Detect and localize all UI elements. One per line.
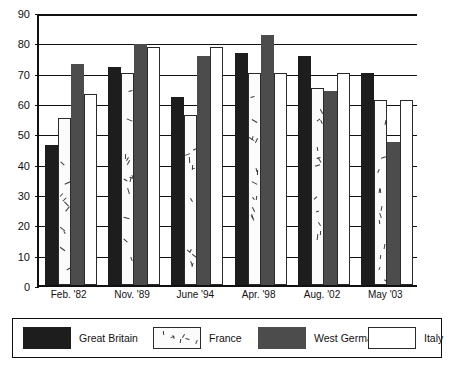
bar-group (102, 14, 165, 285)
bar-group (39, 14, 102, 285)
bar-great-britain[interactable] (171, 97, 184, 285)
legend-item[interactable]: West Germany (258, 319, 384, 357)
speckle-pattern (154, 328, 200, 348)
bar-group (166, 14, 229, 285)
x-tick-label: Apr. '98 (242, 289, 276, 301)
x-tick-label: June '94 (177, 289, 215, 301)
legend-swatch-icon (23, 327, 71, 349)
bar-france[interactable] (248, 73, 261, 285)
x-tick-label: Aug. '02 (304, 289, 340, 301)
bar-great-britain[interactable] (361, 73, 374, 285)
bar-chart: 0102030405060708090 Feb. '82Nov. '89June… (0, 0, 454, 367)
bar-france[interactable] (58, 118, 71, 285)
legend-item[interactable]: Italy (368, 319, 443, 357)
legend: Great BritainFranceWest GermanyItaly (12, 318, 442, 358)
y-tick-label: 70 (18, 69, 30, 80)
x-tick-label: May '03 (368, 289, 403, 301)
y-tick-label: 80 (18, 39, 30, 50)
y-tick-label: 0 (24, 282, 30, 293)
legend-swatch-icon (368, 327, 416, 349)
legend-label: Italy (424, 332, 443, 344)
legend-item[interactable]: Great Britain (23, 319, 138, 357)
bar-france[interactable] (184, 115, 197, 285)
bar-france[interactable] (121, 73, 134, 285)
legend-label: Great Britain (79, 332, 138, 344)
bar-italy[interactable] (337, 73, 350, 285)
bar-italy[interactable] (147, 47, 160, 285)
speckle-pattern (249, 74, 260, 284)
bar-group (292, 14, 355, 285)
bar-italy[interactable] (400, 100, 413, 285)
y-tick-label: 50 (18, 130, 30, 141)
speckle-pattern (185, 116, 196, 284)
bar-italy[interactable] (210, 47, 223, 285)
bars-layer (39, 14, 417, 285)
bar-italy[interactable] (274, 73, 287, 285)
bar-group (356, 14, 419, 285)
bar-great-britain[interactable] (45, 145, 58, 285)
bar-great-britain[interactable] (108, 67, 121, 285)
bar-great-britain[interactable] (298, 56, 311, 285)
bar-west-germany[interactable] (197, 56, 210, 285)
bar-west-germany[interactable] (261, 35, 274, 285)
bar-west-germany[interactable] (134, 44, 147, 285)
y-tick-label: 90 (18, 9, 30, 20)
y-tick-label: 20 (18, 221, 30, 232)
bar-france[interactable] (374, 100, 387, 285)
speckle-pattern (122, 74, 133, 284)
legend-swatch-icon (153, 327, 201, 349)
bar-italy[interactable] (84, 94, 97, 285)
x-tick-label: Feb. '82 (51, 289, 87, 301)
y-tick-label: 40 (18, 160, 30, 171)
y-axis: 0102030405060708090 (0, 14, 34, 287)
speckle-pattern (59, 119, 70, 284)
bar-west-germany[interactable] (71, 64, 84, 285)
bar-france[interactable] (311, 88, 324, 285)
y-tick-label: 60 (18, 100, 30, 111)
speckle-pattern (312, 89, 323, 284)
plot-area (37, 14, 417, 287)
plot-wrapper: 0102030405060708090 Feb. '82Nov. '89June… (0, 0, 454, 312)
bar-group (229, 14, 292, 285)
legend-swatch-icon (258, 327, 306, 349)
speckle-pattern (375, 101, 386, 284)
y-tick-label: 10 (18, 251, 30, 262)
x-tick-label: Nov. '89 (114, 289, 150, 301)
bar-west-germany[interactable] (324, 91, 337, 285)
legend-label: France (209, 332, 242, 344)
legend-item[interactable]: France (153, 319, 242, 357)
y-tick-label: 30 (18, 191, 30, 202)
bar-west-germany[interactable] (387, 142, 400, 285)
y-tick-mark (35, 287, 39, 288)
bar-great-britain[interactable] (235, 53, 248, 285)
x-axis: Feb. '82Nov. '89June '94Apr. '98Aug. '02… (37, 289, 417, 309)
